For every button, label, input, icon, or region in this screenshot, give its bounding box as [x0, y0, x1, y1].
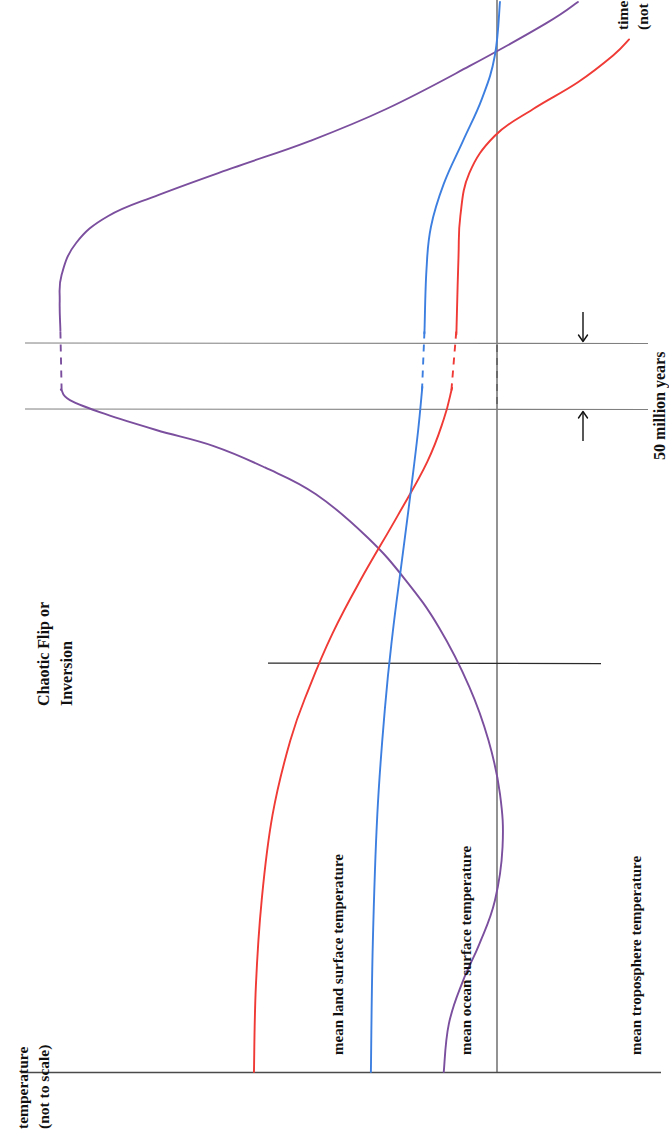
- curve-mean-troposphere-temperature-break: [60, 328, 61, 390]
- curve-mean-troposphere-temperature: [60, 2, 578, 1072]
- break-arrow-up-icon: [579, 412, 588, 442]
- chaotic-flip-label-line2: Inversion: [57, 641, 76, 706]
- curve-mean-land-surface-temperature: [254, 39, 629, 1072]
- axis-break-rule-upper: [25, 343, 648, 344]
- temperature-axis-label: temperature: [14, 1047, 32, 1129]
- curve-mean-ocean-surface-temperature: [371, 2, 500, 1072]
- curve-mean-ocean-surface-temperature-break: [422, 328, 425, 390]
- series-label-mean-troposphere-temperature: mean troposphere temperature: [628, 856, 645, 1055]
- axis-break-rule-lower: [25, 409, 648, 410]
- break-arrow-down-icon: [579, 312, 588, 342]
- curve-mean-land-surface-temperature-break: [451, 328, 456, 390]
- series-label-mean-ocean-surface-temperature: mean ocean surface temperature: [458, 846, 475, 1055]
- chaotic-flip-label-line1: Chaotic Flip or: [34, 602, 53, 706]
- time-axis-sublabel: (not to scale): [634, 0, 652, 30]
- time-axis-label: time: [614, 1, 632, 30]
- series-label-mean-land-surface-temperature: mean land surface temperature: [330, 854, 347, 1055]
- break-span-label: 50 million years: [651, 352, 669, 460]
- chaotic-flip-marker-line: [268, 663, 601, 664]
- temperature-axis-sublabel: (not to scale): [35, 1045, 53, 1129]
